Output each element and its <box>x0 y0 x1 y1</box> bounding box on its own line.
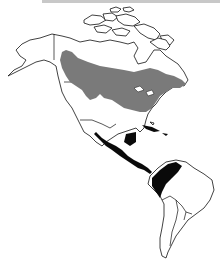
americas-map <box>0 0 220 260</box>
caribbean-islands <box>142 122 168 136</box>
